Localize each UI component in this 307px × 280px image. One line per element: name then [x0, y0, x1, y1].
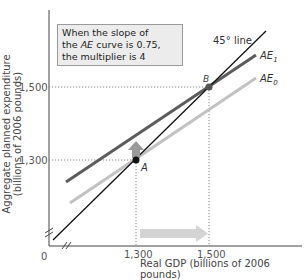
ae0-label-sub: 0 — [273, 79, 277, 87]
ae1-line — [66, 55, 256, 182]
multiplier-annotation: When the slope of the AE curve is 0.75, … — [57, 24, 183, 66]
x-tick-0: 0 — [41, 252, 47, 262]
right-arrow-icon — [140, 225, 208, 242]
point-b-marker — [206, 84, 213, 91]
point-a-marker — [133, 157, 140, 164]
point-b-label: B — [203, 75, 209, 84]
point-a-label: A — [141, 163, 148, 173]
annotation-line-2-em: AE — [81, 39, 94, 50]
y-tick-1300: 1,300 — [19, 156, 48, 166]
annotation-line-1: When the slope of — [62, 27, 148, 38]
annotation-line-2-pre: the — [62, 39, 81, 50]
45-line-label: 45° line — [213, 36, 252, 46]
ae0-label: AE0 — [260, 74, 278, 87]
ae1-label-text: AE — [260, 50, 273, 61]
y-tick-1500: 1,500 — [19, 83, 48, 93]
ae1-label-sub: 1 — [273, 56, 277, 64]
x-axis-label: Real GDP (billions of 2006 pounds) — [140, 258, 307, 280]
ae0-label-text: AE — [260, 73, 273, 84]
ae1-label: AE1 — [260, 51, 278, 64]
ae0-line — [70, 78, 256, 203]
y-axis-label: Aggregate planned expenditure (billions … — [1, 39, 23, 229]
annotation-line-2-post: curve is 0.75, — [93, 39, 160, 50]
annotation-line-3: the multiplier is 4 — [62, 51, 146, 62]
